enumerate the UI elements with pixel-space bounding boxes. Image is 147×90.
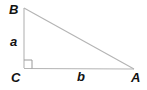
triangle-hypotenuse [24,8,134,69]
vertex-label-c: C [11,71,20,84]
right-angle-marker-icon [24,60,32,69]
right-triangle-figure: B C A a b [0,0,147,90]
vertex-label-a: A [131,71,140,84]
vertex-label-b: B [9,3,18,16]
triangle-drawing [0,0,147,90]
side-label-b: b [77,70,85,83]
side-label-a: a [10,35,17,48]
